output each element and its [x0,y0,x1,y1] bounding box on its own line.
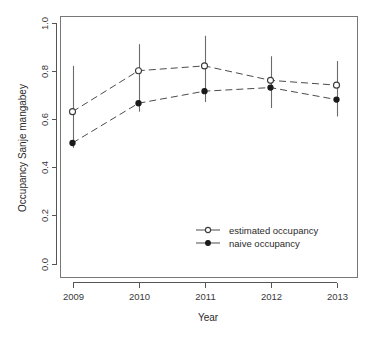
data-point-1-3 [268,85,273,90]
y-tick-label: 0.2 [39,209,50,222]
data-point-1-0 [70,140,75,145]
data-point-0-3 [268,77,274,83]
y-tick-label: 0.4 [39,161,50,174]
x-tick-label: 2012 [261,291,282,302]
y-axis: 0.00.20.40.60.81.0 [39,17,57,271]
x-tick-label: 2010 [129,291,150,302]
series-points [70,63,340,146]
y-axis-ticks [52,24,57,265]
chart-legend: estimated occupancy naive occupancy [196,225,318,249]
series-line-1 [73,88,337,143]
plot-frame [61,17,358,278]
chart-figure: 0.00.20.40.60.81.0 20092010201120122013 … [0,0,375,342]
legend-label-estimated-occupancy: estimated occupancy [229,225,318,236]
x-axis-title: Year [198,312,219,323]
y-tick-label: 1.0 [39,17,50,30]
x-axis-ticks [74,283,338,289]
data-point-1-1 [136,101,141,106]
x-tick-label: 2013 [327,291,348,302]
data-point-1-4 [334,97,339,102]
x-tick-label: 2009 [63,291,84,302]
legend-label-naive-occupancy: naive occupancy [229,238,300,249]
data-point-0-4 [334,82,340,88]
x-axis: 20092010201120122013 [63,283,348,303]
x-axis-tick-labels: 20092010201120122013 [63,291,348,302]
occupancy-line-chart: 0.00.20.40.60.81.0 20092010201120122013 … [0,0,375,342]
y-tick-label: 0.6 [39,113,50,126]
data-point-0-2 [202,63,208,69]
y-tick-label: 0.8 [39,65,50,78]
y-tick-label: 0.0 [39,258,50,271]
data-point-0-0 [70,109,76,115]
y-axis-title: Occupancy Sanje mangabey [17,84,28,212]
legend-marker-estimated [205,227,210,232]
x-tick-label: 2011 [195,291,215,302]
series-lines [73,66,337,143]
legend-marker-naive [206,241,211,246]
data-point-1-2 [202,89,207,94]
data-point-0-1 [136,68,142,74]
y-axis-tick-labels: 0.00.20.40.60.81.0 [39,17,50,271]
